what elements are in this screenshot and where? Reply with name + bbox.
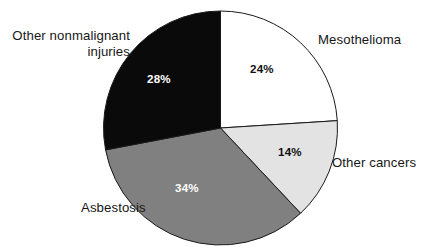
pie-slice-mesothelioma <box>221 11 338 128</box>
slice-label-other-cancers: Other cancers <box>332 155 416 171</box>
slice-value-other-nonmalignant-injuries: 28% <box>147 72 171 85</box>
pie-chart: Other nonmalignant injuries Mesothelioma… <box>0 0 421 252</box>
slice-value-mesothelioma: 24% <box>250 62 274 75</box>
slice-label-other-nonmalignant-injuries: Other nonmalignant injuries <box>8 28 130 59</box>
slice-label-asbestosis: Asbestosis <box>81 200 146 216</box>
slice-value-other-cancers: 14% <box>278 145 302 158</box>
slice-value-asbestosis: 34% <box>175 181 199 194</box>
slice-label-mesothelioma: Mesothelioma <box>318 32 401 48</box>
